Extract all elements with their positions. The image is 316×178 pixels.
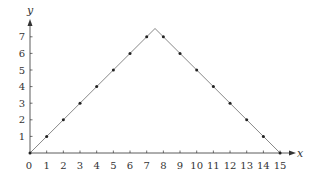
tent-chart: 0123456789101112131415 1234567 x y [0,0,316,178]
x-tick-label: 1 [43,160,49,171]
data-point [179,52,182,55]
y-axis-label: y [26,4,34,17]
x-tick-label: 15 [274,160,287,171]
tent-line [30,29,280,154]
x-tick-label: 3 [77,160,83,171]
y-tick-label: 2 [19,114,25,125]
data-point [229,102,232,105]
y-tick-label: 7 [19,31,25,42]
x-tick-label: 7 [144,160,150,171]
y-axis-arrow-icon [28,19,33,26]
x-axis: 0123456789101112131415 [26,151,296,172]
y-tick-label: 3 [19,98,25,109]
data-point [129,52,132,55]
data-point [195,69,198,72]
x-tick-label: 10 [190,160,203,171]
data-point [162,35,165,38]
data-line [30,29,280,154]
data-point [245,118,248,121]
data-point [279,152,282,155]
data-points [29,35,282,154]
data-point [79,102,82,105]
x-tick-label: 6 [127,160,133,171]
x-tick-label: 0 [26,160,32,171]
data-point [145,35,148,38]
data-point [45,135,48,138]
data-point [212,85,215,88]
y-tick-label: 4 [19,81,25,92]
x-tick-label: 12 [224,160,237,171]
x-tick-label: 13 [240,160,253,171]
data-point [62,118,65,121]
x-tick-label: 5 [110,160,116,171]
x-tick-label: 2 [60,160,66,171]
x-tick-label: 11 [207,160,220,171]
data-point [262,135,265,138]
data-point [95,85,98,88]
x-tick-label: 14 [257,160,270,171]
x-axis-label: x [297,147,304,160]
y-tick-label: 5 [19,65,25,76]
x-tick-label: 8 [160,160,166,171]
y-axis: 1234567 [19,19,33,153]
x-axis-arrow-icon [289,151,296,156]
y-tick-label: 6 [19,48,25,59]
y-tick-label: 1 [19,131,25,142]
x-tick-label: 9 [177,160,183,171]
x-tick-label: 4 [93,160,99,171]
data-point [29,152,32,155]
data-point [112,69,115,72]
